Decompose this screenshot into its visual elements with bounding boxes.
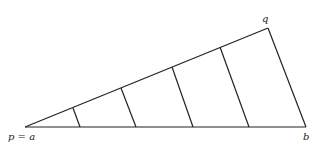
parallel-divisions <box>73 47 249 127</box>
label-p-equals-a: p = a <box>8 131 35 142</box>
label-b: b <box>303 131 309 142</box>
side-qb <box>268 28 306 127</box>
division-line-4 <box>220 47 249 127</box>
label-q: q <box>262 13 268 24</box>
division-line-2 <box>121 88 136 127</box>
division-line-3 <box>172 67 193 127</box>
triangle-diagram: p = a q b <box>0 0 321 145</box>
division-line-1 <box>73 108 80 127</box>
